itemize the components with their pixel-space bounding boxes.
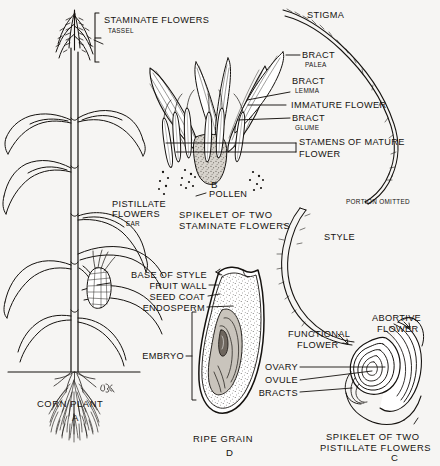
label-base-of-style: BASE OF STYLE: [0, 270, 207, 280]
label-staminate-flowers: STAMINATE FLOWERS: [104, 15, 209, 25]
figure-a-caption: CORN PLANT: [37, 398, 103, 409]
label-style: STYLE: [324, 232, 355, 242]
label-stamens-line1: STAMENS OF MATURE: [299, 137, 405, 147]
figure-d-letter: D: [226, 448, 234, 458]
label-stamens-line2: FLOWER: [299, 149, 340, 159]
label-pollen: POLLEN: [209, 189, 247, 199]
label-portion-omitted: PORTION OMITTED: [346, 198, 410, 205]
label-pistillate-flowers-line1: PISTILLATE: [112, 199, 166, 209]
figure-a-letter: A: [72, 413, 79, 423]
label-seed-coat: SEED COAT: [0, 292, 205, 302]
label-bract-lemma-sub: LEMMA: [295, 87, 319, 94]
label-fruit-wall: FRUIT WALL: [0, 281, 207, 291]
label-embryo: EMBRYO: [0, 351, 184, 361]
label-pistillate-flowers-line2: FLOWERS: [112, 209, 160, 219]
label-functional-flower-line1: FUNCTIONAL: [288, 329, 350, 339]
figure-d-caption: RIPE GRAIN: [193, 433, 253, 444]
figure-b-caption-line2: STAMINATE FLOWERS: [179, 220, 290, 231]
label-tassel: TASSEL: [108, 27, 134, 34]
silk-style-curve: [277, 9, 398, 336]
label-abortive-flower-line2: FLOWER: [377, 324, 418, 334]
figure-b-letter: B: [211, 180, 218, 190]
botanical-plate: STAMINATE FLOWERS TASSEL PISTILLATE FLOW…: [0, 0, 440, 466]
label-functional-flower-line2: FLOWER: [297, 340, 338, 350]
label-abortive-flower-line1: ABORTIVE: [372, 313, 421, 323]
label-endosperm: ENDOSPERM: [0, 303, 205, 313]
figure-c-caption-line1: SPIKELET OF TWO: [326, 431, 420, 442]
figure-c-caption-line2: PISTILLATE FLOWERS: [320, 442, 431, 453]
label-ear: EAR: [126, 220, 140, 227]
label-bract-palea-sub: PALEA: [305, 61, 327, 68]
label-ovary: OVARY: [0, 362, 298, 372]
label-ovule: OVULE: [0, 375, 298, 385]
label-bract-glume-sub: GLUME: [295, 124, 319, 131]
figure-b-caption-line1: SPIKELET OF TWO: [179, 209, 273, 220]
label-stigma: STIGMA: [307, 10, 344, 20]
label-immature-flower: IMMATURE FLOWER: [291, 100, 386, 110]
figure-b-staminate-spikelet: [150, 52, 300, 196]
figure-c-letter: C: [391, 453, 399, 463]
label-bract-glume: BRACT: [292, 113, 325, 123]
label-bract-palea: BRACT: [302, 50, 335, 60]
label-bracts: BRACTS: [0, 388, 298, 398]
label-bract-lemma: BRACT: [292, 76, 325, 86]
